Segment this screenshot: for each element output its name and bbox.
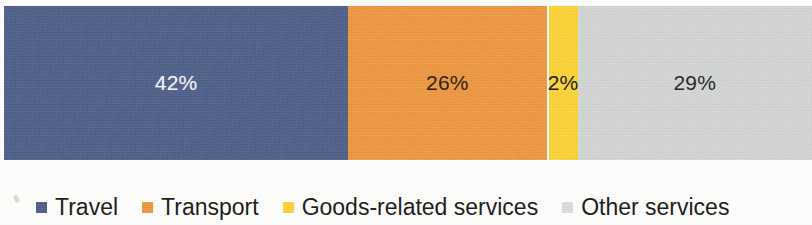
- legend-item-travel[interactable]: Travel: [36, 196, 118, 219]
- legend-swatch-icon-other-services: [562, 202, 573, 213]
- bar-segment-goods-related-services[interactable]: 2%: [549, 6, 578, 160]
- legend-swatch-icon-transport: [142, 202, 153, 213]
- bar-segment-other-services[interactable]: 29%: [578, 6, 812, 160]
- legend-item-transport[interactable]: Transport: [142, 196, 259, 219]
- legend-swatch-icon-travel: [36, 202, 47, 213]
- scan-speck-artifact: [13, 194, 20, 203]
- legend-swatch-icon-goods-related-services: [283, 202, 294, 213]
- legend-label-other-services: Other services: [581, 196, 729, 219]
- legend-label-transport: Transport: [161, 196, 259, 219]
- bar-segment-transport-value: 26%: [426, 71, 469, 95]
- stacked-bar-chart: 42% 26% 2% 29%: [4, 6, 812, 160]
- bar-segment-travel-value: 42%: [155, 71, 198, 95]
- chart-page: 42% 26% 2% 29% Travel Transport Goods-re…: [0, 0, 812, 225]
- legend-item-goods-related-services[interactable]: Goods-related services: [283, 196, 539, 219]
- bar-segment-other-services-value: 29%: [673, 71, 716, 95]
- bar-segment-transport[interactable]: 26%: [348, 6, 547, 160]
- legend-label-travel: Travel: [55, 196, 118, 219]
- bar-segment-goods-related-services-value: 2%: [548, 71, 579, 95]
- chart-legend: Travel Transport Goods-related services …: [36, 192, 729, 222]
- legend-item-other-services[interactable]: Other services: [562, 196, 729, 219]
- bar-segment-travel[interactable]: 42%: [4, 6, 348, 160]
- legend-label-goods-related-services: Goods-related services: [302, 196, 539, 219]
